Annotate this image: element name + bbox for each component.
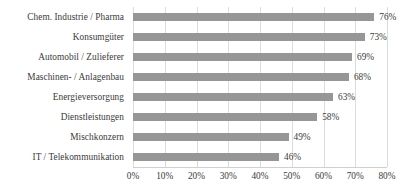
bar-chart: Chem. Industrie / PharmaKonsumgüterAutom… bbox=[0, 0, 411, 193]
category-label: Maschinen- / Anlagenbau bbox=[0, 67, 128, 87]
value-axis: 0%10%20%30%40%50%60%70%80% bbox=[133, 169, 387, 185]
category-label: Energieversorgung bbox=[0, 87, 128, 107]
bar bbox=[133, 13, 374, 21]
category-axis-line bbox=[133, 167, 387, 168]
bar-value-label: 69% bbox=[352, 50, 374, 64]
bar-row: 68% bbox=[133, 67, 387, 87]
bar bbox=[133, 93, 333, 101]
bar-row: 46% bbox=[133, 147, 387, 167]
bar bbox=[133, 53, 352, 61]
bar-row: 76% bbox=[133, 7, 387, 27]
category-label: Automobil / Zulieferer bbox=[0, 47, 128, 67]
bar-value-label: 76% bbox=[374, 10, 396, 24]
plot-area: 76%73%69%68%63%58%49%46% bbox=[133, 7, 387, 167]
bar bbox=[133, 113, 317, 121]
bar-row: 49% bbox=[133, 127, 387, 147]
category-label: Chem. Industrie / Pharma bbox=[0, 7, 128, 27]
bar-value-label: 49% bbox=[289, 130, 311, 144]
bar-value-label: 63% bbox=[333, 90, 355, 104]
bar bbox=[133, 133, 289, 141]
bar bbox=[133, 153, 279, 161]
bar-value-label: 46% bbox=[279, 150, 301, 164]
gridline-80pct bbox=[387, 7, 388, 167]
bar-value-label: 58% bbox=[317, 110, 339, 124]
bar-value-label: 73% bbox=[365, 30, 387, 44]
bar-value-label: 68% bbox=[349, 70, 371, 84]
category-axis: Chem. Industrie / PharmaKonsumgüterAutom… bbox=[0, 7, 128, 167]
bar-row: 73% bbox=[133, 27, 387, 47]
bar bbox=[133, 73, 349, 81]
x-tick-label: 80% bbox=[367, 169, 407, 183]
category-label: Konsumgüter bbox=[0, 27, 128, 47]
bar-row: 69% bbox=[133, 47, 387, 67]
bar-row: 58% bbox=[133, 107, 387, 127]
category-label: Dienstleistungen bbox=[0, 107, 128, 127]
bar-row: 63% bbox=[133, 87, 387, 107]
category-label: Mischkonzern bbox=[0, 127, 128, 147]
bar bbox=[133, 33, 365, 41]
category-label: IT / Telekommunikation bbox=[0, 147, 128, 167]
